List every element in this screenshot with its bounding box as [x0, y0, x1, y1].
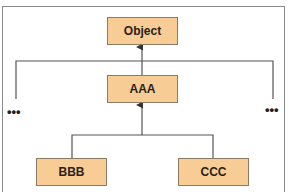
bbb-node: BBB	[36, 158, 107, 186]
ccc-node: CCC	[178, 158, 249, 186]
object-node: Object	[107, 17, 178, 45]
ccc-label: CCC	[201, 165, 227, 179]
bbb-label: BBB	[59, 165, 85, 179]
ellipsis-left: •••	[7, 104, 21, 119]
ellipsis-right: •••	[265, 102, 279, 117]
object-label: Object	[124, 24, 161, 38]
aaa-label: AAA	[130, 82, 156, 96]
aaa-node: AAA	[107, 75, 178, 103]
